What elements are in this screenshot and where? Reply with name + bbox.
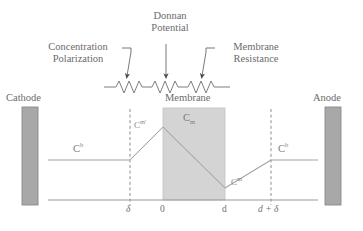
leader-membrane-resistance (202, 48, 215, 76)
leader-concentration-polarization (122, 48, 131, 76)
annotation-leaders (122, 44, 215, 76)
profile-rise-left (130, 127, 163, 160)
tick-label-delta: δ (126, 204, 130, 215)
cathode-label: Cathode (6, 92, 41, 104)
label-bulk-left-sup: b (80, 141, 83, 148)
annotation-donnan-line1: Donnan (140, 10, 200, 22)
annotation-concentration-line2: Polarization (34, 53, 122, 65)
annotation-concentration-polarization: Concentration Polarization (34, 41, 122, 65)
cathode-electrode (22, 107, 38, 205)
anode-label: Anode (313, 92, 341, 104)
label-surface-concentration-right: Cm (231, 175, 242, 187)
tick-label-zero: 0 (160, 204, 165, 215)
label-surface-left-sup: m' (140, 118, 146, 125)
diagram-root: Donnan Potential Concentration Polarizat… (0, 0, 363, 231)
annotation-membrane-resistance: Membrane Resistance (217, 41, 295, 65)
resistor-concentration-polarization (116, 81, 142, 93)
annotation-concentration-line1: Concentration (34, 41, 122, 53)
label-membrane-base: C (183, 112, 190, 123)
label-bulk-right-sup: b (285, 141, 288, 148)
label-surface-concentration-left: Cm' (134, 118, 146, 130)
tick-delta-text: δ (126, 204, 130, 214)
label-surface-right-sup: m (237, 175, 242, 182)
annotation-membrane-resistance-line1: Membrane (217, 41, 295, 53)
anode-electrode (325, 107, 341, 205)
membrane-label: Membrane (165, 92, 210, 104)
diagram-canvas (0, 0, 363, 231)
label-membrane-sub: m (190, 118, 195, 125)
label-bulk-concentration-left: Cb (73, 141, 83, 154)
tick-label-d: d (222, 204, 227, 215)
annotation-membrane-resistance-line2: Resistance (217, 53, 295, 65)
label-membrane-concentration: Cm (183, 112, 195, 125)
label-bulk-left-base: C (73, 143, 80, 154)
annotation-donnan-potential: Donnan Potential (140, 10, 200, 34)
tick-label-d-plus-delta: d + δ (258, 204, 278, 215)
label-bulk-right-base: C (278, 143, 285, 154)
annotation-donnan-line2: Potential (140, 22, 200, 34)
label-bulk-concentration-right: Cb (278, 141, 288, 154)
tick-d-plus-delta-text: d + δ (258, 204, 278, 214)
